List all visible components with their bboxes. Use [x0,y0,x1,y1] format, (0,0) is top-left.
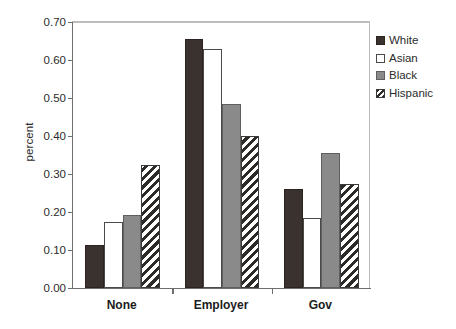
bar-chart: percent 0.000.100.200.300.400.500.600.70… [0,0,456,329]
y-axis-tick-mark [68,60,73,61]
bar-asian-employer [203,49,222,288]
bar-hispanic-none [141,165,160,289]
legend-swatch-icon-hispanic [376,89,385,98]
y-axis-tick-label: 0.30 [34,168,66,180]
plot-area [72,22,371,289]
legend-item-hispanic: Hispanic [376,85,454,103]
legend-item-black: Black [376,67,454,85]
bar-asian-none [104,222,123,289]
y-axis-tick-label: 0.20 [34,206,66,218]
x-axis-label-employer: Employer [194,298,249,312]
y-axis-tick-mark [68,212,73,213]
legend-swatch-icon-asian [376,54,385,63]
legend-swatch-icon-white [376,36,385,45]
x-axis-group-tick [172,288,173,294]
legend-swatch-icon-black [376,71,385,80]
bar-black-gov [321,153,340,288]
y-axis-tick-label: 0.10 [34,244,66,256]
y-axis-tick-mark [68,136,73,137]
chart-legend: WhiteAsianBlackHispanic [376,32,454,102]
y-axis-tick-label: 0.00 [34,282,66,294]
bar-white-none [85,245,104,288]
bar-asian-gov [303,218,322,288]
y-axis-tick-label: 0.70 [34,16,66,28]
x-axis-label-gov: Gov [309,298,332,312]
legend-label: Hispanic [389,88,433,100]
x-axis-label-none: None [107,298,137,312]
bar-white-employer [185,39,204,288]
legend-item-asian: Asian [376,50,454,68]
bar-hispanic-gov [340,184,359,288]
bar-black-none [123,215,142,288]
legend-label: White [389,35,418,47]
bar-black-employer [222,104,241,288]
y-axis-tick-label: 0.50 [34,92,66,104]
legend-label: Black [389,70,417,82]
y-axis-tick-mark [68,98,73,99]
x-axis-group-tick [272,288,273,294]
y-axis-tick-label: 0.60 [34,54,66,66]
y-axis-tick-mark [68,174,73,175]
bar-hispanic-employer [241,136,260,288]
y-axis-tick-mark [68,250,73,251]
legend-item-white: White [376,32,454,50]
y-axis-tick-mark [68,22,73,23]
legend-label: Asian [389,53,418,65]
y-axis-tick-mark [68,288,73,289]
bar-white-gov [284,189,303,288]
y-axis-tick-labels: 0.000.100.200.300.400.500.600.70 [32,0,66,329]
y-axis-tick-label: 0.40 [34,130,66,142]
